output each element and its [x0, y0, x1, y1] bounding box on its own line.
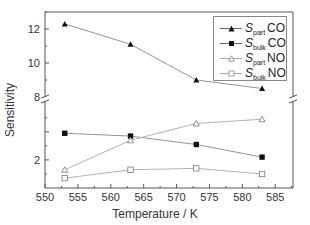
- x-tick-label: 570: [167, 191, 185, 203]
- data-point: [194, 142, 199, 147]
- y-tick-label: 12: [28, 23, 40, 35]
- series-line: [65, 168, 262, 178]
- legend-item-sbulk-no: SbulkNO: [214, 66, 288, 82]
- legend-label: SbulkNO: [245, 66, 286, 85]
- y-tick-label: 2: [34, 154, 40, 166]
- legend-subscript: bulk: [253, 74, 266, 81]
- x-tick-label: 580: [233, 191, 251, 203]
- x-tick-label: 585: [266, 191, 284, 203]
- open-triangle-icon: [228, 55, 235, 62]
- data-point: [62, 175, 67, 180]
- legend-symbol: S: [245, 21, 253, 35]
- y-tick-label: 8: [34, 91, 40, 103]
- data-point: [194, 166, 199, 171]
- x-tick-label: 555: [69, 191, 87, 203]
- x-tick-label: 575: [200, 191, 218, 203]
- x-tick-label: 550: [36, 191, 54, 203]
- data-point: [62, 167, 68, 173]
- data-point: [62, 21, 68, 27]
- series-line: [65, 133, 262, 157]
- legend-subscript: bulk: [253, 44, 266, 51]
- x-tick-label: 560: [102, 191, 120, 203]
- y-tick-label: 10: [28, 57, 40, 69]
- legend-symbol: S: [245, 51, 253, 65]
- legend-subscript: part: [253, 59, 265, 66]
- legend-item-spart-no: SpartNO: [214, 51, 288, 67]
- legend-gas: CO: [268, 36, 286, 50]
- legend-gas: NO: [268, 66, 286, 80]
- x-axis-label: Temperature / K: [112, 207, 197, 221]
- data-point: [193, 77, 199, 83]
- data-point: [62, 131, 67, 136]
- y-axis-label: Sensitivity: [3, 83, 17, 137]
- legend-gas: NO: [267, 51, 285, 65]
- legend-symbol: S: [245, 36, 253, 50]
- filled-square-icon: [228, 40, 235, 47]
- legend-gas: CO: [267, 21, 285, 35]
- data-point: [128, 167, 133, 172]
- legend: SpartCO SbulkCO SpartNO SbulkNO: [213, 16, 287, 81]
- x-tick-label: 565: [134, 191, 152, 203]
- filled-triangle-icon: [228, 25, 235, 32]
- data-point: [259, 171, 264, 176]
- legend-item-sbulk-co: SbulkCO: [214, 36, 288, 52]
- legend-symbol: S: [245, 66, 253, 80]
- data-point: [259, 154, 264, 159]
- legend-subscript: part: [253, 29, 265, 36]
- legend-item-spart-co: SpartCO: [214, 21, 288, 37]
- open-square-icon: [228, 70, 235, 77]
- series-line: [65, 119, 262, 170]
